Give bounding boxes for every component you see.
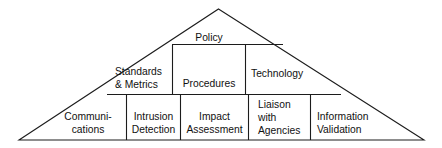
cell-liaison-line2: with <box>257 112 277 123</box>
cell-liaison-line3: Agencies <box>258 125 300 136</box>
cell-standards-metrics-line1: Standards <box>115 66 162 77</box>
cell-communications-line1: Communi- <box>64 111 112 122</box>
cell-technology-label: Technology <box>251 68 304 79</box>
cell-policy-label: Policy <box>195 32 223 43</box>
cell-information-validation-line2: Validation <box>317 124 362 135</box>
cell-procedures: Procedures <box>183 78 236 89</box>
cell-liaison-with-agencies: Liaison with Agencies <box>257 99 300 136</box>
cell-intrusion-detection: Intrusion Detection <box>132 111 176 135</box>
cell-communications: Communi- cations <box>64 111 112 135</box>
cell-communications-line2: cations <box>72 124 105 135</box>
pyramid-diagram: Policy Standards & Metrics Procedures Te… <box>0 0 442 148</box>
cell-impact-assessment-line2: Assessment <box>186 124 242 135</box>
cell-impact-assessment: Impact Assessment <box>186 111 242 135</box>
cell-intrusion-detection-line2: Detection <box>132 124 176 135</box>
cell-standards-metrics: Standards & Metrics <box>115 66 162 90</box>
cell-impact-assessment-line1: Impact <box>199 111 230 122</box>
pyramid-svg-canvas: Policy Standards & Metrics Procedures Te… <box>0 0 442 148</box>
cell-procedures-label: Procedures <box>183 78 236 89</box>
cell-technology: Technology <box>251 68 304 79</box>
cell-liaison-line1: Liaison <box>258 99 291 110</box>
cell-information-validation-line1: Information <box>317 111 369 122</box>
cell-intrusion-detection-line1: Intrusion <box>134 111 174 122</box>
cell-standards-metrics-line2: & Metrics <box>115 79 158 90</box>
cell-policy: Policy <box>195 32 223 43</box>
cell-information-validation: Information Validation <box>317 111 369 135</box>
